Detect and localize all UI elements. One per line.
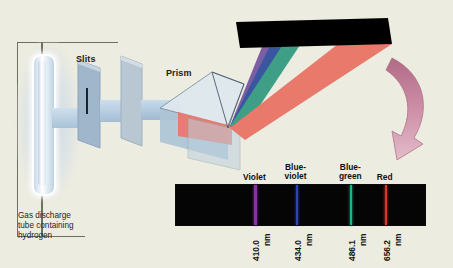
wavelength-unit-label: nm	[358, 233, 368, 246]
wavelength-label: 434.0	[293, 240, 303, 261]
wavelength-unit-label: nm	[393, 233, 403, 246]
spectrum-color-label: Red	[363, 173, 407, 182]
wavelength-label: 486.1	[347, 240, 357, 261]
figure-canvas: Slits Prism Gas discharge tube containin…	[0, 0, 453, 268]
wavelength-unit-label: nm	[304, 233, 314, 246]
wavelength-label: 410.0	[251, 240, 261, 261]
spectral-line-656.2	[385, 185, 387, 225]
spectral-line-434.0	[296, 185, 298, 225]
spectrum-color-label: Violet	[232, 173, 276, 182]
source-caption: Gas discharge tube containing hydrogen	[18, 211, 122, 241]
wavelength-unit-label: nm	[262, 233, 272, 246]
spectral-line-410.0	[254, 185, 256, 225]
prism-label: Prism	[166, 68, 192, 79]
wavelength-label: 656.2	[382, 240, 392, 261]
spectrum-color-label: Blue- violet	[274, 163, 318, 182]
slits-label: Slits	[76, 54, 96, 65]
emission-spectrum-strip	[176, 185, 425, 225]
spectral-line-486.1	[350, 185, 352, 225]
